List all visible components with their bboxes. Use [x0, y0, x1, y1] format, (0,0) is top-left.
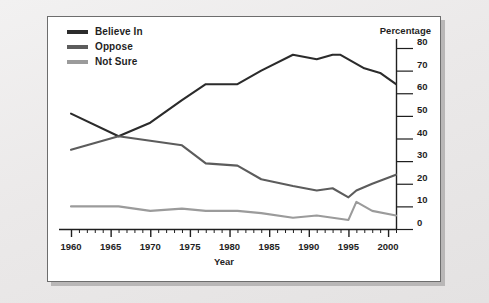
x-tick-label: 1990	[298, 241, 319, 252]
legend-item-not-sure[interactable]: Not Sure	[67, 54, 143, 69]
y-tick-label: 20	[417, 172, 428, 183]
legend-label: Not Sure	[95, 56, 137, 67]
x-tick-label: 2000	[378, 241, 399, 252]
legend-label: Believe In	[95, 26, 143, 37]
y-tick-label: 80	[417, 36, 428, 47]
y-axis-title: Percentage	[380, 25, 431, 36]
y-tick-label: 10	[417, 194, 428, 205]
legend-label: Oppose	[95, 41, 133, 52]
x-tick-label: 1965	[100, 241, 122, 252]
x-tick-label: 1985	[259, 241, 281, 252]
y-tick-label: 30	[417, 149, 428, 160]
x-tick-label: 1970	[140, 241, 161, 252]
legend-item-oppose[interactable]: Oppose	[67, 39, 143, 54]
chart-panel: 0102030405060708019601965197019751980198…	[47, 16, 441, 282]
y-tick-label: 60	[417, 81, 428, 92]
legend-item-believe-in[interactable]: Believe In	[67, 24, 143, 39]
screenshot-root: 0102030405060708019601965197019751980198…	[0, 0, 489, 303]
x-tick-label: 1995	[338, 241, 360, 252]
series-line-oppose	[71, 136, 396, 197]
line-swatch-icon	[67, 30, 88, 34]
y-tick-label: 40	[417, 127, 428, 138]
x-tick-label: 1960	[60, 241, 81, 252]
x-axis-title-text: Year	[214, 256, 234, 267]
x-axis-title: Year	[48, 256, 440, 267]
line-swatch-icon	[67, 45, 88, 49]
x-tick-label: 1980	[219, 241, 240, 252]
series-line-not-sure	[71, 202, 396, 220]
line-swatch-icon	[67, 60, 88, 64]
legend: Believe In Oppose Not Sure	[67, 24, 143, 69]
y-tick-label: 0	[417, 217, 422, 228]
y-tick-label: 50	[417, 104, 428, 115]
y-tick-label: 70	[417, 59, 428, 70]
x-tick-label: 1975	[179, 241, 201, 252]
